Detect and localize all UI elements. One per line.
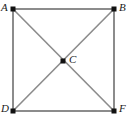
point-marker-f xyxy=(112,109,117,114)
point-marker-b xyxy=(112,7,117,12)
point-label-a: A xyxy=(1,2,8,13)
point-marker-d xyxy=(11,109,16,114)
point-marker-a xyxy=(11,7,16,12)
geometry-figure: A B C D F xyxy=(0,0,132,122)
point-label-d: D xyxy=(1,103,9,114)
figure-canvas xyxy=(0,0,132,122)
point-marker-c xyxy=(61,59,66,64)
point-label-f: F xyxy=(119,103,126,114)
point-label-c: C xyxy=(69,54,76,65)
point-label-b: B xyxy=(119,2,126,13)
